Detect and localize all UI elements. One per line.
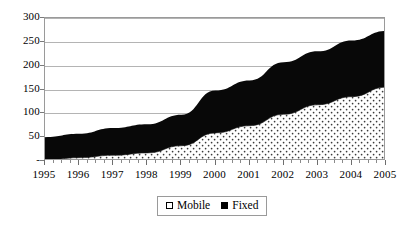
legend-item-mobile: Mobile	[166, 199, 210, 212]
series-layer	[45, 18, 385, 160]
y-tick-label: 300	[0, 11, 40, 22]
y-axis: -50100150200250300	[0, 0, 40, 233]
x-tick-label: 2005	[362, 168, 408, 181]
x-tick-minor-mark	[376, 160, 377, 163]
x-tick-mark	[283, 160, 284, 165]
x-tick-minor-mark	[334, 160, 335, 163]
x-tick-mark	[249, 160, 250, 165]
x-tick-minor-mark	[70, 160, 71, 163]
x-tick-mark	[44, 160, 45, 165]
x-tick-minor-mark	[232, 160, 233, 163]
plot-area	[44, 17, 385, 160]
x-tick-minor-mark	[266, 160, 267, 163]
x-tick-minor-mark	[308, 160, 309, 163]
legend-swatch-fixed-icon	[221, 202, 228, 209]
x-tick-minor-mark	[274, 160, 275, 163]
y-tick-label: 150	[0, 83, 40, 94]
x-tick-mark	[112, 160, 113, 165]
legend-item-fixed: Fixed	[221, 199, 258, 212]
x-tick-mark	[351, 160, 352, 165]
x-axis: 1995199619971998199920002001200220032004…	[0, 168, 414, 184]
x-tick-minor-mark	[53, 160, 54, 163]
x-tick-mark	[180, 160, 181, 165]
x-tick-minor-mark	[342, 160, 343, 163]
y-tick-label: 50	[0, 130, 40, 141]
x-tick-minor-mark	[189, 160, 190, 163]
x-tick-minor-mark	[138, 160, 139, 163]
x-axis-ticks	[44, 160, 385, 165]
x-tick-minor-mark	[206, 160, 207, 163]
y-tick-label: 100	[0, 106, 40, 117]
x-tick-mark	[215, 160, 216, 165]
legend-swatch-mobile-icon	[166, 202, 173, 209]
y-tick-label: 250	[0, 35, 40, 46]
x-tick-minor-mark	[240, 160, 241, 163]
x-tick-minor-mark	[359, 160, 360, 163]
x-tick-minor-mark	[197, 160, 198, 163]
x-tick-mark	[317, 160, 318, 165]
x-tick-minor-mark	[121, 160, 122, 163]
x-tick-minor-mark	[61, 160, 62, 163]
x-tick-minor-mark	[172, 160, 173, 163]
x-tick-minor-mark	[223, 160, 224, 163]
x-tick-mark	[385, 160, 386, 165]
y-tick-label: -	[0, 154, 40, 165]
x-tick-minor-mark	[300, 160, 301, 163]
x-tick-minor-mark	[257, 160, 258, 163]
x-tick-minor-mark	[291, 160, 292, 163]
x-tick-minor-mark	[325, 160, 326, 163]
stacked-area-chart: -50100150200250300 199519961997199819992…	[0, 0, 414, 233]
legend-label-fixed: Fixed	[232, 199, 258, 212]
x-tick-minor-mark	[155, 160, 156, 163]
x-tick-minor-mark	[368, 160, 369, 163]
x-tick-mark	[146, 160, 147, 165]
x-tick-mark	[78, 160, 79, 165]
chart-legend: Mobile Fixed	[157, 196, 267, 216]
legend-label-mobile: Mobile	[177, 199, 210, 212]
x-tick-minor-mark	[95, 160, 96, 163]
x-tick-minor-mark	[104, 160, 105, 163]
x-tick-minor-mark	[163, 160, 164, 163]
x-tick-minor-mark	[129, 160, 130, 163]
x-tick-minor-mark	[87, 160, 88, 163]
y-tick-label: 200	[0, 59, 40, 70]
